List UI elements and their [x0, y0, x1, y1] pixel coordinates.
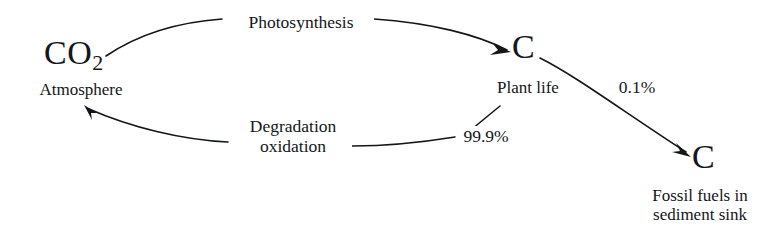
edge-label-photosynthesis: Photosynthesis	[228, 12, 374, 33]
fossil-fuels-caption-line-2: sediment sink	[625, 205, 775, 224]
photosynthesis-arrowhead	[490, 44, 511, 55]
degradation-arrowhead	[84, 105, 97, 120]
edge-label-degradation-share: 99.9%	[457, 126, 515, 147]
node-plant-life-symbol: C	[512, 30, 535, 64]
photosynthesis-arc-left	[106, 19, 222, 56]
node-atmosphere-symbol: CO2	[44, 36, 104, 70]
photosynthesis-arc-right	[374, 19, 507, 50]
degradation-label-line-2: oxidation	[234, 137, 352, 157]
degradation-label-line-1: Degradation	[234, 117, 352, 137]
burial-arc	[540, 58, 686, 152]
node-fossil-fuels-caption: Fossil fuels in sediment sink	[625, 186, 775, 224]
degradation-arc-left	[89, 109, 228, 142]
fossil-fuels-caption-line-1: Fossil fuels in	[625, 186, 775, 205]
co2-subscript: 2	[92, 50, 104, 75]
carbon-cycle-diagram: CO2 Atmosphere C Plant life C Fossil fue…	[0, 0, 779, 234]
edge-label-burial-share: 0.1%	[613, 77, 661, 98]
co2-symbol-text: CO	[44, 34, 92, 71]
node-fossil-fuels-symbol: C	[692, 140, 715, 174]
node-plant-life-caption: Plant life	[478, 78, 578, 98]
node-atmosphere-caption: Atmosphere	[28, 80, 134, 100]
degradation-arc-right	[352, 137, 455, 146]
edge-label-degradation: Degradation oxidation	[234, 117, 352, 156]
